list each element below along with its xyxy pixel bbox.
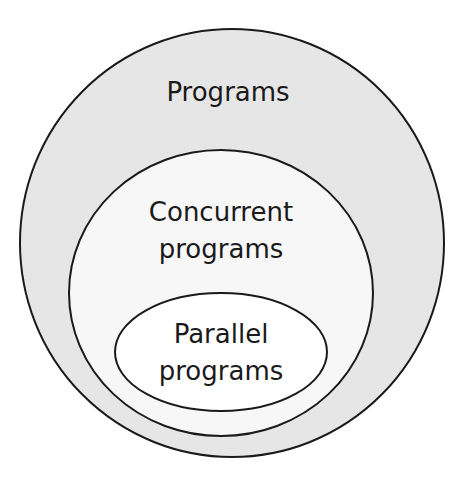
concurrent-label-line1: Concurrent <box>149 197 293 227</box>
concurrent-label-line2: programs <box>159 234 284 264</box>
programs-label: Programs <box>166 77 289 107</box>
nested-sets-diagram: Programs Concurrent programs Parallel pr… <box>0 0 464 482</box>
parallel-label-line2: programs <box>159 356 284 386</box>
parallel-programs-set <box>115 293 327 411</box>
parallel-label-line1: Parallel <box>174 319 269 349</box>
